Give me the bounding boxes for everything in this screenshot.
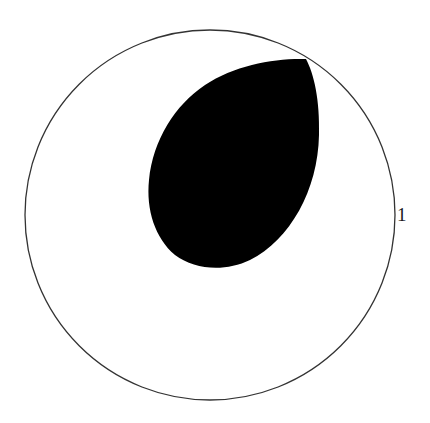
- radius-label: 1: [397, 205, 407, 224]
- polar-diagram: [0, 0, 430, 423]
- diagram-canvas: 1: [0, 0, 430, 423]
- filled-lobe: [148, 59, 319, 268]
